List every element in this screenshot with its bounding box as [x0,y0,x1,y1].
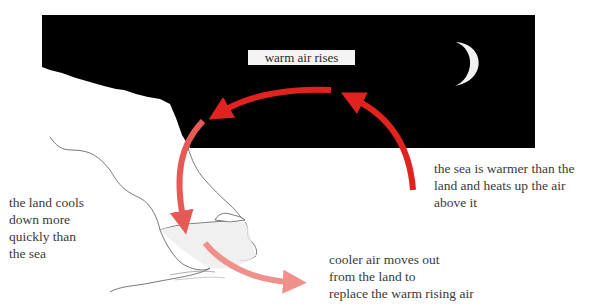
night-sky-shape [42,15,535,148]
land-caption: the land cools down more quickly than th… [9,194,109,262]
warm-air-rises-label: warm air rises [248,50,355,65]
sea-caption: the sea is warmer than the land and heat… [434,160,604,211]
cooler-air-caption: cooler air moves out from the land to re… [329,251,529,302]
